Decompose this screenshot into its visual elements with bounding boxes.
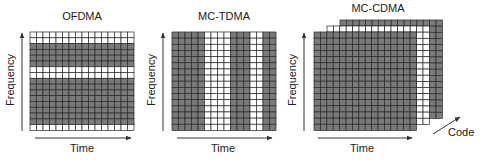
- grid-cell: [43, 73, 50, 79]
- grid-cell: [56, 61, 63, 67]
- grid-cell: [333, 38, 339, 44]
- grid-cell: [352, 63, 358, 69]
- grid-cell: [314, 124, 320, 130]
- grid-cell: [37, 84, 44, 90]
- grid-cell: [346, 63, 352, 69]
- grid-cell: [327, 69, 333, 75]
- grid-cell: [391, 38, 397, 44]
- grid-cell: [231, 63, 238, 69]
- grid-cell: [327, 38, 333, 44]
- grid-cell: [76, 84, 83, 90]
- grid-cell: [185, 57, 192, 63]
- grid-cell: [340, 75, 346, 81]
- grid-cell: [417, 38, 423, 44]
- grid-cell: [198, 100, 205, 106]
- grid-cell: [257, 100, 264, 106]
- grid-cell: [69, 55, 76, 61]
- grid-cell: [263, 81, 270, 87]
- grid-cell: [95, 44, 102, 50]
- grid-cell: [397, 94, 403, 100]
- grid-cell: [231, 69, 238, 75]
- grid-cell: [56, 125, 63, 131]
- grid-cell: [430, 45, 436, 51]
- grid-cell: [82, 101, 89, 107]
- grid-cell: [352, 106, 358, 112]
- grid-cell: [333, 32, 339, 38]
- grid-cell: [185, 106, 192, 112]
- grid-cell: [37, 61, 44, 67]
- grid-cell: [250, 38, 257, 44]
- grid-cell: [108, 49, 115, 55]
- grid-cell: [185, 32, 192, 38]
- grid-cell: [436, 88, 442, 94]
- time-axis-label: Time: [70, 142, 94, 154]
- grid-cell: [263, 38, 270, 44]
- grid-cell: [30, 49, 37, 55]
- grid-cell: [172, 38, 179, 44]
- grid-cell: [333, 44, 339, 50]
- grid-cell: [108, 32, 115, 38]
- grid-cell: [327, 100, 333, 106]
- grid-cell: [82, 32, 89, 38]
- grid-cell: [108, 55, 115, 61]
- grid-cell: [172, 100, 179, 106]
- grid-cell: [378, 50, 384, 56]
- grid-cell: [192, 63, 199, 69]
- grid-cell: [56, 67, 63, 73]
- grid-cell: [237, 118, 244, 124]
- grid-cell: [340, 32, 346, 38]
- grid-cell: [89, 125, 96, 131]
- grid-cell: [346, 32, 352, 38]
- grid-cell: [391, 112, 397, 118]
- grid-cell: [417, 75, 423, 81]
- grid-cell: [404, 63, 410, 69]
- grid-cell: [179, 118, 186, 124]
- grid-cell: [378, 57, 384, 63]
- grid-cell: [76, 38, 83, 44]
- grid-cell: [340, 100, 346, 106]
- grid-cell: [372, 63, 378, 69]
- grid-cell: [244, 57, 251, 63]
- grid-cell: [50, 67, 57, 73]
- grid-cell: [115, 84, 122, 90]
- grid-cell: [346, 69, 352, 75]
- code-axis-label: Code: [448, 126, 474, 138]
- grid-cell: [185, 87, 192, 93]
- grid-cell: [384, 118, 390, 124]
- grid-cell: [128, 101, 135, 107]
- grid-cell: [56, 44, 63, 50]
- grid-cell: [359, 75, 365, 81]
- grid-cell: [320, 32, 326, 38]
- grid-cell: [237, 38, 244, 44]
- grid-cell: [205, 63, 212, 69]
- grid-cell: [430, 51, 436, 57]
- grid-cell: [327, 32, 333, 38]
- grid-cell: [352, 118, 358, 124]
- grid-cell: [95, 38, 102, 44]
- grid-cell: [346, 20, 352, 26]
- grid-cell: [95, 73, 102, 79]
- grid-cell: [372, 57, 378, 63]
- frequency-axis-label: Frequency: [286, 54, 298, 106]
- grid-cell: [436, 32, 442, 38]
- grid-cell: [250, 94, 257, 100]
- grid-cell: [231, 32, 238, 38]
- grid-cell: [365, 69, 371, 75]
- grid-cell: [76, 44, 83, 50]
- grid-cell: [43, 49, 50, 55]
- grid-cell: [263, 112, 270, 118]
- grid-cell: [346, 87, 352, 93]
- grid-cell: [56, 101, 63, 107]
- grid-cell: [417, 88, 423, 94]
- grid-cell: [340, 69, 346, 75]
- grid-cell: [430, 88, 436, 94]
- grid-cell: [102, 49, 109, 55]
- grid-cell: [384, 94, 390, 100]
- grid-cell: [205, 50, 212, 56]
- grid-cell: [218, 94, 225, 100]
- grid-cell: [417, 26, 423, 32]
- grid-cell: [263, 75, 270, 81]
- grid-cell: [378, 75, 384, 81]
- grid-cell: [37, 113, 44, 119]
- grid-cell: [30, 96, 37, 102]
